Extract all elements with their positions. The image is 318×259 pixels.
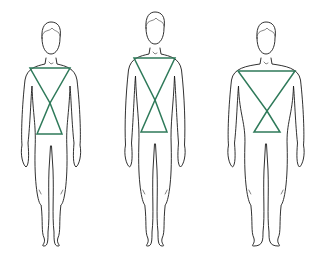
knee-detail	[143, 190, 167, 194]
neck-detail	[264, 62, 268, 64]
right-body-outline	[156, 48, 186, 246]
upper-triangle	[30, 68, 70, 103]
figure-2: Figure 2	[125, 12, 185, 246]
figures-canvas: Figure 1Figure 2Figure 3	[0, 0, 318, 259]
head-outline	[146, 12, 165, 44]
right-body-outline	[52, 58, 81, 246]
head-outline	[257, 22, 276, 54]
neck-detail	[153, 52, 157, 54]
figure-3: Figure 3	[228, 22, 304, 246]
body-shapes-diagram: Male body shapes Figure 1Figure 2Figure …	[0, 0, 318, 259]
upper-triangle	[134, 58, 175, 100]
lower-triangle	[37, 103, 62, 134]
right-body-outline	[267, 58, 305, 246]
hair-line	[257, 28, 275, 36]
hair-line	[42, 28, 60, 36]
knee-detail	[249, 190, 283, 194]
left-body-outline	[125, 48, 155, 246]
head-outline	[42, 22, 61, 54]
knee-detail	[39, 190, 63, 194]
lower-triangle	[254, 111, 280, 132]
figure-1: Figure 1	[21, 22, 80, 246]
upper-triangle	[238, 71, 295, 111]
left-body-outline	[21, 58, 50, 246]
neck-detail	[49, 62, 53, 64]
hair-line	[146, 18, 164, 26]
lower-triangle	[141, 100, 167, 132]
left-body-outline	[228, 58, 266, 246]
